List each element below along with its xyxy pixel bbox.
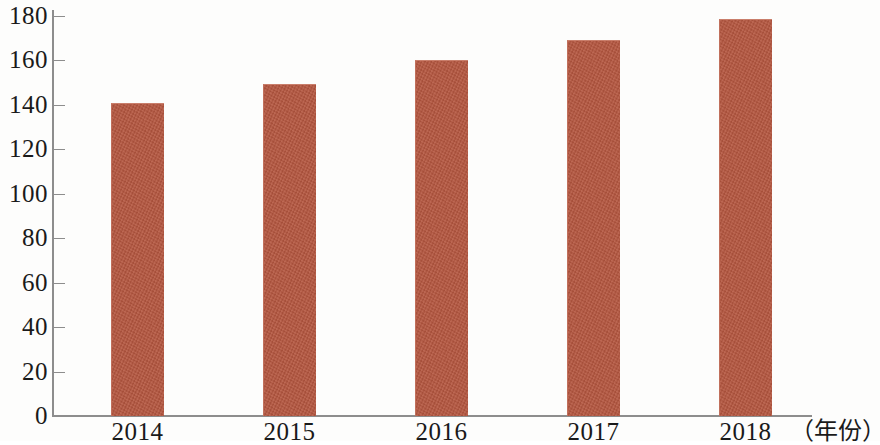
y-axis-tick	[54, 149, 65, 150]
x-axis-tick-label: 2017	[534, 419, 654, 445]
x-axis-tick-label: 2016	[382, 419, 502, 445]
bar-2015	[263, 84, 316, 416]
y-axis-tick-label: 0	[2, 403, 48, 428]
y-axis-tick-label-wrap: 40	[0, 314, 48, 339]
y-axis-tick	[54, 194, 65, 195]
y-axis-tick	[54, 60, 65, 61]
y-axis-tick-label: 180	[2, 3, 48, 28]
x-axis-caption: （年份）	[790, 418, 880, 444]
y-axis-tick	[54, 372, 65, 373]
y-axis-tick-label: 40	[2, 314, 48, 339]
y-axis-tick-label-wrap: 140	[0, 92, 48, 117]
y-axis-tick-label-wrap: 100	[0, 181, 48, 206]
y-axis-tick-label-wrap: 20	[0, 359, 48, 384]
y-axis-tick-label: 80	[2, 225, 48, 250]
y-axis-tick-label-wrap: 180	[0, 3, 48, 28]
y-axis-tick-label-wrap: 60	[0, 270, 48, 295]
bar-2018	[719, 19, 772, 416]
y-axis-line	[52, 10, 54, 417]
bar-2014	[111, 103, 164, 416]
bar-2016	[415, 60, 468, 416]
y-axis-tick	[54, 416, 65, 417]
y-axis-tick-label-wrap: 0	[0, 403, 48, 428]
y-axis-tick	[54, 105, 65, 106]
x-axis-tick-label: 2015	[230, 419, 350, 445]
y-axis-tick-label: 60	[2, 270, 48, 295]
y-axis-tick-label: 120	[2, 136, 48, 161]
y-axis-tick-label-wrap: 80	[0, 225, 48, 250]
y-axis-tick-label: 20	[2, 359, 48, 384]
y-axis-tick-label: 160	[2, 47, 48, 72]
y-axis-tick	[54, 327, 65, 328]
y-axis-tick	[54, 238, 65, 239]
y-axis-tick-label: 100	[2, 181, 48, 206]
y-axis-tick-label: 140	[2, 92, 48, 117]
y-axis-tick	[54, 283, 65, 284]
x-axis-tick-label: 2014	[78, 419, 198, 445]
x-axis-tick-label: 2018	[686, 419, 806, 445]
y-axis-tick-label-wrap: 120	[0, 136, 48, 161]
bar-2017	[567, 40, 620, 416]
y-axis-tick-label-wrap: 160	[0, 47, 48, 72]
y-axis-tick	[54, 16, 65, 17]
